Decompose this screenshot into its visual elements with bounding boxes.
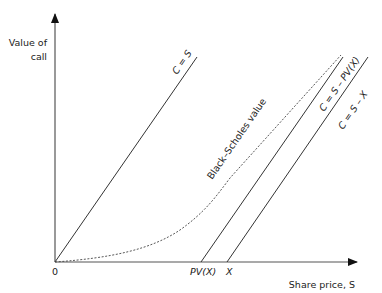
y-axis-label-line2: call [31, 51, 47, 62]
pvx-tick-label: PV(X) [190, 266, 216, 277]
label-c-eq-s: C = S [170, 48, 194, 76]
option-value-diagram: Value of call 0 PV(X) X Share price, S C… [0, 0, 382, 293]
label-black-scholes: Black–Scholes value [205, 96, 269, 181]
label-c-eq-s-minus-x: C = S – X [336, 88, 370, 131]
y-axis-label-line1: Value of [9, 37, 48, 48]
line-c-eq-s-minus-x [227, 57, 368, 262]
origin-label: 0 [52, 266, 58, 277]
x-axis-label: Share price, S [289, 279, 355, 290]
line-c-eq-s [55, 57, 197, 262]
x-tick-label: X [225, 266, 233, 277]
